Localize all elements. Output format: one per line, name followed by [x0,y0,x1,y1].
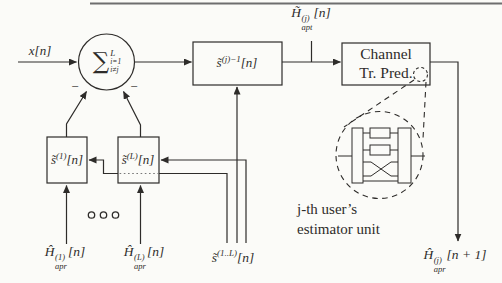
s-bundle-label: s̃(1..L)[n] [212,251,255,266]
apr-out-sub: apr [434,265,446,274]
userL-code-label: s̃(L)[n] [122,153,155,167]
schematic-right-block [398,128,411,183]
input-label-text: x[n] [29,43,51,58]
sL-arg: [n] [138,152,155,167]
apt-arg: [n] [313,5,330,20]
apr-out-base: Ĥ [424,247,434,262]
repeat-dot-1 [88,212,94,218]
aprL-base: Ĥ [124,244,134,259]
apr1-base: Ĥ [45,244,55,259]
aprL-label: Ĥ(L)apr[n] [124,245,164,271]
repeat-dot-3 [112,212,118,218]
wire-bundle-to-userL [161,160,246,243]
wire-bundle-to-user1-left [89,160,118,174]
repeat-dots [88,212,118,218]
apr1-arg: [n] [68,244,85,259]
inv-sup: (j)−1 [222,54,241,64]
aprL-sub: apr [134,262,146,271]
minus-sign-right: − [130,80,137,94]
apt-label: H̃(j)apt[n] [291,6,330,32]
estimator-block-diagram: x[n] ∑ L i=1 i≠j − − s̃(j)−1[n] H̃(j)apt… [0,0,502,283]
schematic-left-block [352,128,363,183]
channel-label-line2: Tr. Pred. [359,64,412,84]
channel-predictor-label: Channel Tr. Pred. [359,44,412,84]
repeat-dot-2 [100,212,106,218]
sigma-glyph: ∑ [93,49,109,72]
apr-out-arg: [n + 1] [447,247,487,262]
s1-arg: [n] [66,152,83,167]
magnifier-small-circle [414,68,428,82]
apr-output-label: Ĥ(j)apr[n + 1] [424,248,487,274]
note-line1: j-th user’s [297,199,380,219]
s-bundle-sup: (1..L) [217,248,237,258]
apr1-sub: apr [55,262,67,271]
magnifier-callout [336,68,428,199]
aprL-arg: [n] [147,244,164,259]
apr1-label: Ĥ(1)apr[n] [45,245,85,271]
schematic-tap-2 [370,145,390,155]
user1-code-label: s̃(1)[n] [51,153,83,167]
estimator-unit-note: j-th user’s estimator unit [297,199,380,240]
input-label: x[n] [29,44,51,58]
note-line2: estimator unit [297,219,380,239]
sL-sup: (L) [127,151,138,161]
apt-sub: apt [302,23,313,32]
schematic-tap-1 [370,128,390,138]
s1-sup: (1) [56,151,67,161]
sum-symbol: ∑ L i=1 i≠j [93,48,121,75]
inv-arg: [n] [241,55,258,70]
predictor-schematic [338,128,425,183]
wire-predictor-output [430,62,458,241]
wire-user1-to-sum [67,92,87,138]
s-bundle-arg: [n] [237,250,254,265]
magnifier-leader-right [423,82,426,139]
diagram-wires [0,0,502,283]
sum-lower-limit-2: i≠j [110,66,118,74]
magnifier-leader-left [344,80,414,127]
minus-sign-left: − [71,80,78,94]
channel-label-line1: Channel [359,44,412,64]
wire-userL-to-sum [124,92,141,138]
inverse-code-label: s̃(j)−1[n] [217,56,258,70]
apt-base: H̃ [291,5,301,20]
wire-bundle-to-user1-right [159,174,227,244]
schematic-cross-lines [371,162,391,176]
